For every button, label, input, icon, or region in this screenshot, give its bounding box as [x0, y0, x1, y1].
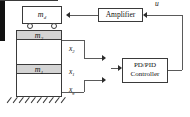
wire-cart-input-arrowhead-icon: [66, 12, 70, 18]
wire-x2-arrowhead-icon: [102, 55, 106, 61]
mass-damper-subscript: d: [44, 15, 46, 20]
ground-hatch-mark: [55, 97, 60, 103]
controller-label-line1: PD/PID: [122, 62, 168, 69]
ground-hatch-mark: [13, 97, 18, 103]
wire-xg-vertical: [84, 80, 85, 92]
ground-line: [0, 0, 58, 1]
wire-x2-to-sensor: [84, 58, 102, 59]
wire-controller-output: [168, 70, 182, 71]
wire-feedback-vertical: [182, 15, 183, 70]
signal-u-label: u: [155, 0, 159, 8]
ground-hatch-mark: [25, 97, 30, 103]
mass-second-story-symbol: m: [35, 31, 41, 40]
ground-hatch-mark: [61, 97, 66, 103]
mass-first-story-label: m1: [16, 66, 62, 74]
amplifier-label: Amplifier: [98, 11, 143, 19]
mass-damper-symbol: m: [38, 10, 44, 19]
cart-wheel-left-icon: [27, 23, 33, 29]
ground-hatch-mark: [37, 97, 42, 103]
wire-x2-horizontal: [62, 40, 84, 41]
ground-hatch-mark: [7, 97, 12, 103]
wire-xg-to-sensor: [84, 80, 102, 81]
cart-wheel-right-icon: [51, 23, 57, 29]
controller-label-line2: Controller: [122, 71, 168, 78]
wire-amplifier-input-arrowhead-icon: [143, 12, 147, 18]
ground-hatch-mark: [31, 97, 36, 103]
signal-x2-subscript: 2: [72, 49, 74, 54]
signal-x1-subscript: 1: [72, 72, 74, 77]
sensor-bar: [0, 1, 5, 41]
wire-xg-horizontal: [62, 92, 84, 93]
mass-first-story-subscript: 1: [41, 70, 43, 75]
mass-second-story-subscript: 2: [41, 36, 43, 41]
wire-to-amplifier: [147, 15, 182, 16]
mass-damper-label: md: [22, 11, 62, 19]
wire-x2-vertical: [84, 40, 85, 58]
wire-sensor-to-controller: [111, 68, 118, 69]
wire-xg-arrowhead-icon: [102, 77, 106, 83]
signal-x2-label: x2: [69, 45, 75, 53]
ground-hatch-mark: [43, 97, 48, 103]
block-diagram-canvas: md m2 m1 x2 x1 xg PD/PID Co: [0, 0, 190, 117]
mass-first-story-symbol: m: [35, 65, 41, 74]
ground-hatch-mark: [49, 97, 54, 103]
ground-hatch-mark: [19, 97, 24, 103]
wire-amplifier-to-cart: [70, 15, 98, 16]
mass-second-story-label: m2: [16, 32, 62, 40]
signal-x1-label: x1: [69, 68, 75, 76]
